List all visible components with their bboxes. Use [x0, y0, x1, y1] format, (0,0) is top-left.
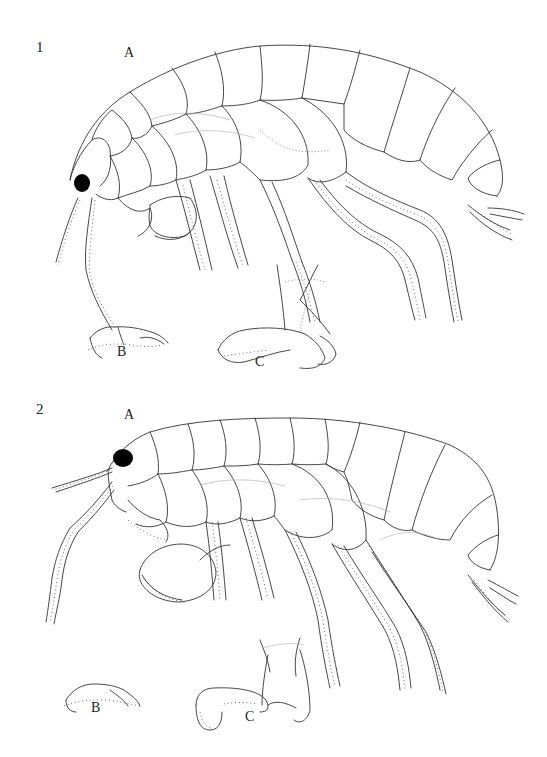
figure-1a-body	[56, 44, 524, 330]
figure-2b-gnathopod	[64, 684, 140, 712]
illustration-plate: 1 A B C 2 A B C	[0, 0, 547, 757]
figure-2a-body	[46, 418, 518, 722]
line-drawing	[0, 0, 547, 757]
figure-1c-gnathopod	[218, 265, 336, 369]
figure-1b-gnathopod	[88, 327, 168, 358]
eye-icon	[113, 449, 133, 467]
eye-icon	[74, 174, 90, 192]
figure-2c-gnathopod	[196, 638, 304, 730]
